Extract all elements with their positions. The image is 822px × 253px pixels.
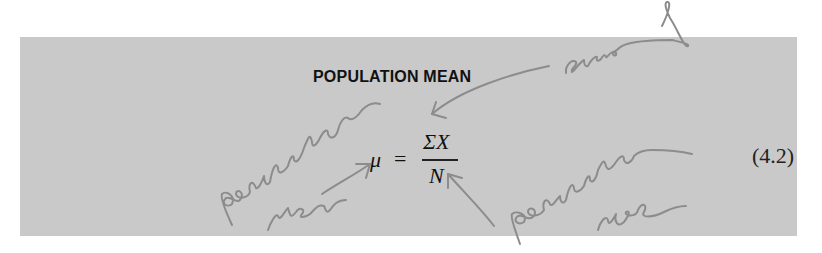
handwritten-annotations [0, 0, 822, 253]
arrow-population-size-to-n [448, 174, 494, 226]
annotation-population-mean [222, 103, 380, 230]
arrow-sum-of-to-sigma [432, 66, 549, 118]
arrow-population-mean-to-mu [322, 164, 370, 194]
annotation-population-size [512, 150, 692, 244]
annotation-sum-of [566, 2, 688, 73]
